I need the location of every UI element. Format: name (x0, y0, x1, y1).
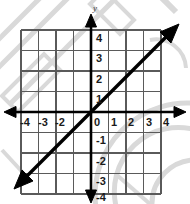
graph-canvas: -4 -3 -2 0 1 2 3 4 4 3 2 1 -1 -2 -3 -4 y (0, 0, 190, 204)
y-axis-title: y (92, 3, 97, 13)
coordinate-plane-figure: -4 -3 -2 0 1 2 3 4 4 3 2 1 -1 -2 -3 -4 y (0, 0, 190, 204)
x-tick-label: -2 (55, 116, 65, 128)
x-tick-label-zero: 0 (94, 116, 100, 128)
x-tick-label: -4 (20, 116, 31, 128)
y-tick-label: 1 (96, 93, 102, 105)
x-tick-label: 1 (111, 116, 117, 128)
y-tick-label: 4 (96, 32, 103, 44)
x-axis-tick-labels: -4 -3 -2 0 1 2 3 4 (20, 116, 170, 128)
x-axis-arrow-right (174, 107, 186, 118)
y-tick-label: -1 (96, 134, 106, 146)
y-tick-label: 3 (96, 52, 102, 64)
x-tick-label: 2 (128, 116, 134, 128)
y-tick-label: -2 (96, 155, 106, 167)
x-tick-label: 3 (146, 116, 152, 128)
y-tick-label: -3 (96, 175, 106, 187)
x-tick-label: 4 (163, 116, 170, 128)
y-tick-label: -4 (96, 191, 107, 203)
x-axis-arrow-left (4, 107, 16, 118)
y-tick-label: 2 (96, 73, 102, 85)
x-tick-label: -3 (38, 116, 48, 128)
